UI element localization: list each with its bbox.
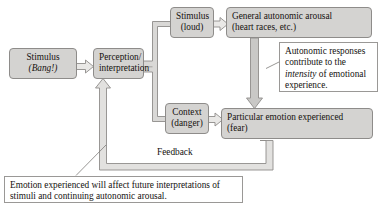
node-emotion-line1: Particular emotion experienced xyxy=(227,112,343,122)
node-perception-line1: Perception/ xyxy=(99,52,141,62)
node-perception-line2: interpretation xyxy=(99,63,138,74)
callout-intensity: Autonomic responses contribute to the in… xyxy=(279,42,378,92)
node-context-line2: (danger) xyxy=(171,118,203,129)
node-context-danger[interactable]: Context (danger) xyxy=(165,103,209,134)
callout-intensity-seg1: Autonomic responses contribute to the xyxy=(285,46,365,67)
node-stimulus-loud-line2: (loud) xyxy=(176,22,208,33)
leader-line-intensity-callout xyxy=(266,62,279,69)
callout-intensity-seg2-italic: intensity xyxy=(285,69,317,79)
callout-feedback: Emotion experienced will affect future i… xyxy=(4,176,243,203)
node-stimulus-loud[interactable]: Stimulus (loud) xyxy=(170,7,214,38)
node-particular-emotion[interactable]: Particular emotion experienced (fear) xyxy=(221,108,373,139)
arrow-stimulus-to-perception xyxy=(77,60,94,73)
node-stimulus-loud-line1: Stimulus xyxy=(176,11,209,21)
node-arousal-line2: (heart races, etc.) xyxy=(232,22,366,33)
edge-label-feedback: Feedback xyxy=(154,147,196,157)
node-arousal-line1: General autonomic arousal xyxy=(232,11,332,21)
arrow-arousal-to-emotion xyxy=(247,38,263,109)
node-context-line1: Context xyxy=(172,107,201,117)
node-emotion-line2: (fear) xyxy=(227,123,367,134)
diagram-canvas: Stimulus (Bang!) Perception/ interpretat… xyxy=(0,0,380,207)
node-general-autonomic-arousal[interactable]: General autonomic arousal (heart races, … xyxy=(226,7,372,38)
node-stimulus-bang-line1: Stimulus xyxy=(26,52,59,62)
node-stimulus-bang-line2: (Bang!) xyxy=(15,63,71,74)
node-stimulus-bang[interactable]: Stimulus (Bang!) xyxy=(9,48,77,79)
callout-feedback-text: Emotion experienced will affect future i… xyxy=(10,180,220,201)
node-perception-interpretation[interactable]: Perception/ interpretation xyxy=(93,48,144,79)
